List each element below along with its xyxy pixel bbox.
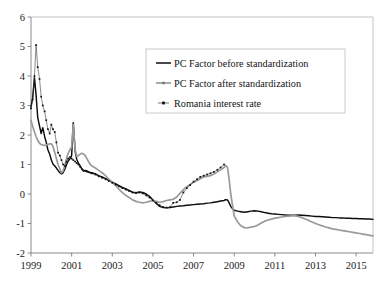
series-marker-romania	[83, 170, 85, 172]
series-marker-romania	[81, 168, 83, 170]
y-tick-label: 1	[20, 159, 25, 170]
series-marker-romania	[186, 187, 188, 189]
series-marker-romania	[145, 195, 147, 197]
series-marker-romania	[220, 167, 222, 169]
x-tick-label: 2007	[183, 260, 204, 271]
x-tick-label: 2013	[305, 260, 326, 271]
series-marker-romania	[42, 105, 44, 107]
series-marker-romania	[199, 176, 201, 178]
series-marker-romania	[156, 202, 158, 204]
series-marker-romania	[76, 162, 78, 164]
legend-label-1: PC Factor after standardization	[174, 78, 301, 89]
series-marker-romania	[56, 142, 58, 144]
series-marker-romania	[67, 158, 69, 160]
series-marker-romania	[54, 131, 56, 133]
series-marker-romania	[118, 185, 120, 187]
x-tick-label: 2005	[142, 260, 163, 271]
series-marker-romania	[59, 155, 61, 157]
series-marker-romania	[35, 44, 37, 46]
x-tick-label: 2001	[61, 260, 82, 271]
series-marker-romania	[166, 207, 168, 209]
series-marker-romania	[64, 165, 66, 167]
series-marker-romania	[183, 192, 185, 194]
series-marker-romania	[39, 78, 41, 80]
series-marker-romania	[34, 75, 36, 77]
y-tick-label: 2	[20, 130, 25, 141]
series-marker-romania	[91, 173, 93, 175]
series-marker-romania	[37, 66, 39, 68]
series-marker-romania	[86, 171, 88, 173]
series-marker-romania	[32, 99, 34, 101]
series-marker-romania	[125, 189, 127, 191]
series-marker-romania	[216, 169, 218, 171]
series-marker-romania	[79, 166, 81, 168]
series-marker-romania	[213, 171, 215, 173]
series-marker-romania	[189, 184, 191, 186]
series-marker-romania	[47, 128, 49, 130]
series-marker-romania	[84, 170, 86, 172]
series-marker-romania	[49, 133, 51, 135]
series-marker-romania	[223, 164, 225, 166]
y-tick-label: 4	[20, 71, 26, 82]
series-marker-romania	[206, 174, 208, 176]
y-tick-label: -2	[16, 248, 25, 259]
series-marker-romania	[132, 192, 134, 194]
series-marker-romania	[138, 192, 140, 194]
false	[162, 82, 165, 85]
series-marker-romania	[30, 108, 32, 110]
x-tick-label: 2009	[224, 260, 245, 271]
series-marker-romania	[111, 182, 113, 184]
y-tick-label: 3	[20, 100, 25, 111]
series-marker-romania	[169, 206, 171, 208]
series-marker-romania	[203, 175, 205, 177]
line-chart: 6543210-1-2 1999200120032005200720092011…	[0, 0, 384, 284]
series-marker-romania	[172, 202, 174, 204]
series-marker-romania	[128, 190, 130, 192]
series-marker-romania	[69, 156, 71, 158]
series-marker-romania	[159, 204, 161, 206]
series-marker-romania	[149, 197, 151, 199]
series-marker-romania	[62, 164, 64, 166]
series-marker-romania	[196, 178, 198, 180]
x-tick-label: 2011	[265, 260, 286, 271]
series-marker-romania	[162, 206, 164, 208]
series-marker-romania	[98, 175, 100, 177]
chart-container: 6543210-1-2 1999200120032005200720092011…	[0, 0, 384, 284]
series-marker-romania	[135, 192, 137, 194]
series-marker-romania	[40, 96, 42, 98]
series-marker-romania	[115, 184, 117, 186]
series-marker-romania	[122, 187, 124, 189]
series-marker-romania	[71, 158, 73, 160]
series-marker-romania	[210, 173, 212, 175]
series-marker-romania	[108, 180, 110, 182]
y-tick-label: 0	[20, 189, 25, 200]
series-marker-romania	[52, 128, 54, 130]
series-marker-romania	[95, 174, 97, 176]
series-marker-romania	[61, 159, 63, 161]
series-marker-romania	[88, 171, 90, 173]
series-marker-romania	[105, 178, 107, 180]
series-marker-romania	[66, 161, 68, 163]
series-marker-romania	[179, 199, 181, 201]
y-tick-label: -1	[16, 218, 25, 229]
series-marker-romania	[193, 181, 195, 183]
series-marker-romania	[74, 161, 76, 163]
series-marker-romania	[176, 201, 178, 203]
series-marker-romania	[152, 200, 154, 202]
series-marker-romania	[89, 172, 91, 174]
series-marker-romania	[57, 152, 59, 154]
x-tick-label: 2003	[102, 260, 123, 271]
y-tick-label: 5	[20, 41, 25, 52]
false	[162, 102, 165, 105]
series-marker-romania	[45, 119, 47, 121]
series-marker-romania	[72, 159, 74, 161]
series-marker-romania	[101, 177, 103, 179]
legend-label-0: PC Factor before standardization	[174, 58, 308, 69]
chart-background	[0, 0, 384, 284]
chart-legend: PC Factor before standardizationPC Facto…	[146, 49, 345, 113]
series-marker-romania	[78, 164, 80, 166]
x-tick-label: 2015	[346, 260, 367, 271]
series-marker-romania	[50, 124, 52, 126]
legend-label-2: Romania interest rate	[174, 98, 262, 109]
series-marker-romania	[44, 111, 46, 113]
